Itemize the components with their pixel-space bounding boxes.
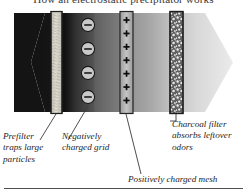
stage-positive-mesh [120,12,133,114]
stage-charcoal-filter [170,12,183,114]
stage-prefilter [51,12,62,114]
negative-charge-symbol [81,90,94,103]
footer-rule [0,186,247,194]
callout-charcoal-filter: Charcoal filter absorbs leftover odors [172,119,247,153]
negative-charge-symbol [81,66,94,79]
callout-negative-grid: Negatively charged grid [62,131,124,154]
negative-charge-symbol [81,18,94,31]
callout-positive-mesh: Positively charged mesh [128,174,246,185]
negative-charge-symbol [81,42,94,55]
leader-positive-mesh [126,114,141,174]
callout-prefilter: Prefilter traps large particles [3,131,55,165]
electrostatic-precipitator-figure: How an electrostatic precipitator works [0,0,247,194]
